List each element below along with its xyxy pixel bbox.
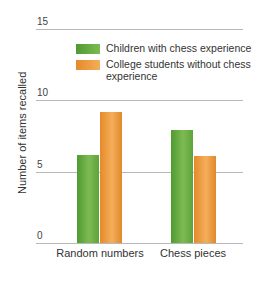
x-label-chess-pieces: Chess pieces bbox=[143, 247, 243, 259]
bar-chess-college bbox=[194, 156, 216, 243]
x-label-random-numbers: Random numbers bbox=[50, 247, 150, 259]
y-axis-label: Number of items recalled bbox=[16, 74, 28, 194]
gridline-0 bbox=[36, 243, 243, 244]
legend-swatch-orange bbox=[76, 60, 100, 70]
gridline-15 bbox=[36, 29, 243, 30]
legend: Children with chess experience College s… bbox=[76, 42, 254, 86]
y-tick-5: 5 bbox=[37, 159, 43, 170]
bar-chess-children bbox=[171, 130, 193, 243]
y-tick-10: 10 bbox=[37, 87, 48, 98]
bar-random-children bbox=[77, 155, 99, 243]
legend-item-children: Children with chess experience bbox=[76, 42, 254, 54]
y-tick-15: 15 bbox=[37, 16, 48, 27]
bar-random-college bbox=[100, 112, 122, 243]
legend-item-college: College students without chess experienc… bbox=[76, 58, 254, 82]
gridline-10 bbox=[36, 100, 243, 101]
y-tick-0: 0 bbox=[37, 230, 43, 241]
legend-swatch-green bbox=[76, 44, 100, 54]
